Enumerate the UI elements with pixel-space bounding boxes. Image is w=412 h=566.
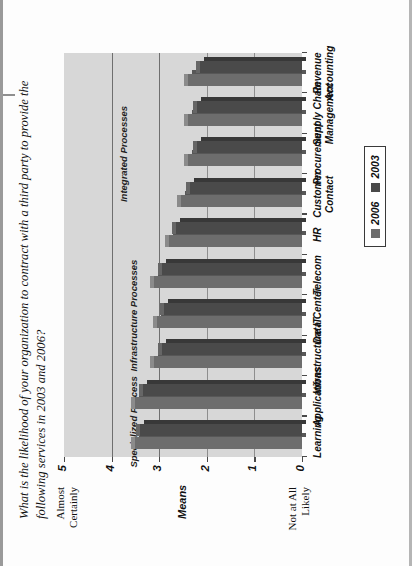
bar-2006-customer-contact[interactable] xyxy=(181,195,302,207)
bar-top-highlight xyxy=(177,195,181,207)
bar-2003-supply-chain-management[interactable] xyxy=(197,101,302,113)
value-tick xyxy=(112,457,113,462)
bar-face xyxy=(169,235,302,247)
bar-top-highlight xyxy=(160,303,164,315)
bar-2003-procurement[interactable] xyxy=(197,142,302,154)
bar-face xyxy=(188,74,302,86)
figure-page: What is the likelihood of your organizat… xyxy=(0,0,412,566)
value-tick-label: 4 xyxy=(104,465,116,483)
legend-label-2003: 2003 xyxy=(369,155,381,178)
bar-top-highlight xyxy=(172,222,176,234)
bar-group xyxy=(64,263,302,288)
bar-face xyxy=(162,263,302,275)
bar-2006-supply-chain-management[interactable] xyxy=(188,114,302,126)
value-tick xyxy=(64,457,65,462)
value-axis-title: Means xyxy=(176,485,188,519)
bar-side-shadow xyxy=(144,420,306,424)
bar-2006-hr[interactable] xyxy=(169,235,302,247)
bar-group xyxy=(64,142,302,167)
axis-high-end-label: Almost Certainly xyxy=(54,487,80,549)
bar-top-highlight xyxy=(150,357,154,369)
bar-2006-telecom[interactable] xyxy=(154,276,302,288)
bar-top-highlight xyxy=(165,235,169,247)
bar-face xyxy=(162,344,302,356)
chart-legend: 20062003 xyxy=(364,146,386,247)
bar-top-highlight xyxy=(184,155,188,167)
bar-face xyxy=(157,316,302,328)
bar-group xyxy=(64,61,302,86)
bar-face xyxy=(188,114,302,126)
bar-top-highlight xyxy=(139,384,143,396)
chart-plot-area: Specialized ProcessesInfrastructure Proc… xyxy=(64,53,302,457)
bar-top-highlight xyxy=(186,182,190,194)
bar-group xyxy=(64,424,302,449)
bar-2003-learning[interactable] xyxy=(140,424,302,436)
bar-side-shadow xyxy=(201,97,306,101)
bar-face xyxy=(143,384,302,396)
bar-side-shadow xyxy=(166,340,306,344)
bar-side-shadow xyxy=(204,57,306,61)
category-tick xyxy=(302,173,307,174)
value-tick xyxy=(302,457,303,462)
bar-face xyxy=(154,276,302,288)
bar-2003-customer-contact[interactable] xyxy=(190,182,302,194)
legend-swatch-2003 xyxy=(371,183,380,192)
value-tick-label: 1 xyxy=(246,465,258,483)
legend-swatch-2006 xyxy=(371,229,380,238)
bar-2006-procurement[interactable] xyxy=(188,155,302,167)
category-tick xyxy=(302,294,307,295)
value-tick xyxy=(207,457,208,462)
bar-side-shadow xyxy=(147,380,306,384)
bar-2006-applications[interactable] xyxy=(135,397,302,409)
bar-top-highlight xyxy=(131,397,135,409)
category-tick xyxy=(302,52,307,53)
bar-2003-telecom[interactable] xyxy=(162,263,302,275)
bar-2006-revenue-accounting[interactable] xyxy=(188,74,302,86)
bar-side-shadow xyxy=(201,138,306,142)
bar-top-highlight xyxy=(184,114,188,126)
value-tick-label: 2 xyxy=(199,465,211,483)
bar-2006-learning[interactable] xyxy=(135,437,302,449)
figure-title: What is the likelihood of your organizat… xyxy=(16,49,50,519)
page-edge-left xyxy=(0,0,3,566)
bar-face xyxy=(190,182,302,194)
bar-face xyxy=(181,195,302,207)
bar-face xyxy=(188,155,302,167)
category-tick xyxy=(302,92,307,93)
bar-top-highlight xyxy=(196,61,200,73)
bar-group xyxy=(64,384,302,409)
category-label-revenue-accounting: Revenue Accounting xyxy=(312,31,336,115)
bar-group xyxy=(64,222,302,247)
bar-side-shadow xyxy=(194,178,306,182)
bar-face xyxy=(197,101,302,113)
bar-face xyxy=(200,61,302,73)
category-tick xyxy=(302,375,307,376)
bar-face xyxy=(176,222,302,234)
bar-side-shadow xyxy=(168,299,306,303)
bar-top-highlight xyxy=(150,276,154,288)
bar-top-highlight xyxy=(193,101,197,113)
bar-top-highlight xyxy=(158,344,162,356)
value-tick xyxy=(159,457,160,462)
category-tick xyxy=(302,335,307,336)
bar-2006-infrastructure-it[interactable] xyxy=(154,357,302,369)
bar-2003-data-center[interactable] xyxy=(164,303,302,315)
bar-side-shadow xyxy=(166,259,306,263)
legend-label-2006: 2006 xyxy=(369,202,381,225)
bar-2003-revenue-accounting[interactable] xyxy=(200,61,302,73)
bar-top-highlight xyxy=(136,424,140,436)
bar-face xyxy=(164,303,302,315)
legend-item-2003[interactable]: 2003 xyxy=(369,155,381,191)
bar-2003-infrastructure-it[interactable] xyxy=(162,344,302,356)
rotated-figure: What is the likelihood of your organizat… xyxy=(10,13,402,553)
bar-top-highlight xyxy=(131,437,135,449)
category-tick xyxy=(302,133,307,134)
bar-side-shadow xyxy=(180,218,306,222)
bar-group xyxy=(64,101,302,126)
bar-2003-applications[interactable] xyxy=(143,384,302,396)
legend-item-2006[interactable]: 2006 xyxy=(369,202,381,238)
bar-top-highlight xyxy=(193,142,197,154)
category-tick xyxy=(302,415,307,416)
bar-2006-data-center[interactable] xyxy=(157,316,302,328)
bar-2003-hr[interactable] xyxy=(176,222,302,234)
